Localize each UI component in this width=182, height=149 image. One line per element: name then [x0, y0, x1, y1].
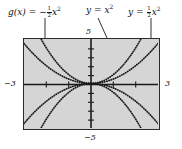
parabola-comparison-figure: g(x) = −12x2 y = x2 y = 12x2 −3 3 5 −5 — [0, 0, 182, 149]
graph-viewport — [23, 38, 160, 130]
graph-plot — [24, 39, 158, 128]
